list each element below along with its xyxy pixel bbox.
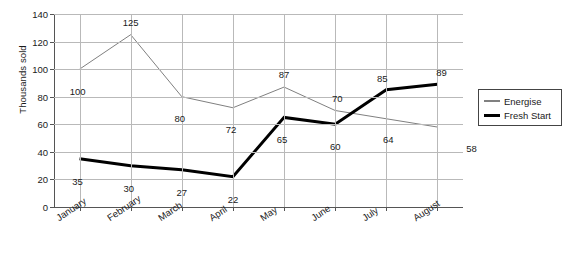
y-gridline xyxy=(54,124,463,125)
value-label: 72 xyxy=(226,123,237,134)
x-tick-mark xyxy=(233,207,234,211)
y-tick-label: 40 xyxy=(37,146,48,157)
value-label: 58 xyxy=(466,143,477,154)
x-gridline xyxy=(233,14,234,207)
value-label: 35 xyxy=(72,175,83,186)
legend-line-icon-energise xyxy=(484,100,500,102)
x-tick-mark xyxy=(335,207,336,211)
y-tick-label: 80 xyxy=(37,91,48,102)
value-label: 27 xyxy=(177,186,188,197)
x-gridline xyxy=(335,14,336,207)
legend-line-icon-fresh-start xyxy=(484,114,500,117)
value-label: 60 xyxy=(330,141,341,152)
x-gridline xyxy=(284,14,285,207)
y-gridline xyxy=(54,42,463,43)
value-label: 22 xyxy=(228,193,239,204)
value-label: 30 xyxy=(123,182,134,193)
value-label: 100 xyxy=(70,86,86,97)
y-tick-label: 20 xyxy=(37,174,48,185)
y-tick-mark xyxy=(50,14,54,15)
y-gridline xyxy=(54,97,463,98)
value-label: 85 xyxy=(377,72,388,83)
y-tick-mark xyxy=(50,97,54,98)
y-tick-mark xyxy=(50,69,54,70)
value-label: 65 xyxy=(277,134,288,145)
y-tick-mark xyxy=(50,207,54,208)
y-axis-title: Thousands sold xyxy=(17,20,28,140)
y-tick-label: 140 xyxy=(32,9,48,20)
value-label: 64 xyxy=(383,133,394,144)
y-tick-label: 120 xyxy=(32,36,48,47)
x-gridline xyxy=(182,14,183,207)
value-label: 70 xyxy=(332,92,343,103)
x-tick-mark xyxy=(386,207,387,211)
x-gridline xyxy=(131,14,132,207)
y-tick-mark xyxy=(50,124,54,125)
legend-item-fresh-start[interactable]: Fresh Start xyxy=(484,108,557,122)
y-tick-label: 0 xyxy=(43,202,48,213)
y-tick-mark xyxy=(50,152,54,153)
series-layer xyxy=(54,14,463,207)
legend-label-fresh-start: Fresh Start xyxy=(504,110,551,121)
value-label: 87 xyxy=(279,69,290,80)
legend-item-energise[interactable]: Energise xyxy=(484,94,557,108)
x-gridline xyxy=(386,14,387,207)
y-tick-mark xyxy=(50,179,54,180)
x-gridline xyxy=(437,14,438,207)
x-tick-mark xyxy=(284,207,285,211)
y-tick-label: 60 xyxy=(37,119,48,130)
y-gridline xyxy=(54,69,463,70)
value-label: 125 xyxy=(123,16,139,27)
value-label: 80 xyxy=(175,112,186,123)
y-gridline xyxy=(54,14,463,15)
legend-label-energise: Energise xyxy=(504,96,542,107)
plot-area: 020406080100120140JanuaryFebruaryMarchAp… xyxy=(54,14,463,207)
y-tick-label: 100 xyxy=(32,64,48,75)
value-label: 89 xyxy=(436,67,447,78)
line-chart: Thousands sold 020406080100120140January… xyxy=(0,0,570,253)
y-gridline xyxy=(54,179,463,180)
series-line-fresh-start xyxy=(80,84,438,176)
y-gridline xyxy=(54,152,463,153)
y-tick-mark xyxy=(50,42,54,43)
legend: Energise Fresh Start xyxy=(478,89,562,126)
